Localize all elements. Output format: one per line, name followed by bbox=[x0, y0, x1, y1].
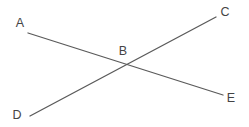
point-label-b: B bbox=[119, 45, 127, 58]
line-diagram bbox=[0, 0, 249, 127]
point-label-d: D bbox=[12, 109, 21, 122]
diagram-canvas: A B C D E bbox=[0, 0, 249, 127]
line-segment-ae bbox=[28, 33, 223, 95]
line-segment-dc bbox=[30, 17, 216, 116]
point-label-a: A bbox=[16, 17, 24, 30]
point-label-e: E bbox=[227, 92, 235, 105]
point-label-c: C bbox=[220, 6, 229, 19]
